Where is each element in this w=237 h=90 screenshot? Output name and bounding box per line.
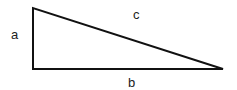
label-side-b: b bbox=[128, 75, 135, 90]
label-side-a: a bbox=[11, 27, 19, 42]
triangle-diagram: a c b bbox=[0, 0, 237, 90]
label-hypotenuse-c: c bbox=[133, 7, 140, 22]
right-triangle bbox=[33, 8, 223, 69]
